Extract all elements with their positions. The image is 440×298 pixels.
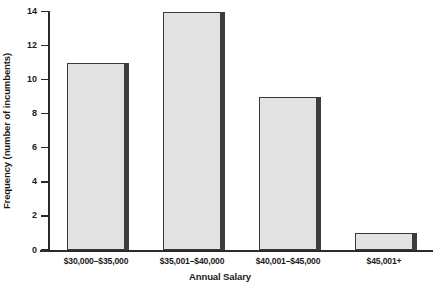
- y-tick-mark: [41, 215, 48, 216]
- y-tick-label: 2: [11, 211, 37, 220]
- y-tick-label: 8: [11, 109, 37, 118]
- y-tick-mark: [41, 181, 48, 182]
- bar: [259, 97, 317, 250]
- bar: [355, 233, 413, 250]
- x-tick-label: $30,000–$35,000: [48, 256, 144, 267]
- y-tick-label: 6: [11, 143, 37, 152]
- y-tick-mark: [41, 249, 48, 250]
- x-tick-label: $45,001+: [336, 256, 432, 267]
- bar: [67, 63, 125, 250]
- y-tick-label: 12: [11, 41, 37, 50]
- y-tick-label: 0: [11, 246, 37, 255]
- y-tick-mark: [41, 113, 48, 114]
- y-tick-label: 4: [11, 177, 37, 186]
- x-axis-title: Annual Salary: [0, 271, 440, 282]
- y-tick-label: 10: [11, 75, 37, 84]
- y-tick-mark: [41, 11, 48, 12]
- x-axis-line: [40, 250, 433, 252]
- y-tick-label: 14: [11, 7, 37, 16]
- y-tick-mark: [41, 147, 48, 148]
- histogram-chart: Frequency (number of incumbents) 0246810…: [0, 0, 440, 298]
- x-tick-label: $35,001–$40,000: [144, 256, 240, 267]
- x-tick-label: $40,001–$45,000: [240, 256, 336, 267]
- bar: [163, 12, 221, 251]
- y-tick-mark: [41, 79, 48, 80]
- y-axis-line: [48, 11, 50, 251]
- y-tick-mark: [41, 45, 48, 46]
